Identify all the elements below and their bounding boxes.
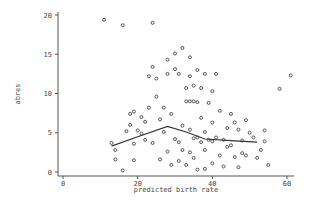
x-tick-label: 0 [61,180,65,188]
data-point [211,121,214,124]
data-point [263,140,266,143]
y-tick-label: 15 [44,51,52,59]
data-point [200,87,203,90]
data-point [222,165,225,168]
data-point [177,160,180,163]
data-point [188,128,191,131]
data-point [166,72,169,75]
data-point [151,141,154,144]
data-point [207,101,210,104]
data-point [188,100,191,103]
data-point [237,128,240,131]
data-point [192,137,195,140]
y-tick-label: 20 [44,12,52,20]
data-point [203,130,206,133]
data-point [170,163,173,166]
data-point [103,18,106,21]
data-point [211,90,214,93]
y-axis-title: abres [14,83,22,104]
y-tick-label: 5 [48,129,52,137]
data-point [170,112,173,115]
data-point [185,163,188,166]
data-point [121,169,124,172]
data-point [129,123,132,126]
data-point [181,124,184,127]
data-point [196,168,199,171]
data-point [233,156,236,159]
data-point [226,145,229,148]
data-point [226,127,229,130]
data-point [125,130,128,133]
data-point [218,154,221,157]
data-point [162,130,165,133]
data-point [166,58,169,61]
x-tick-label: 60 [283,180,291,188]
data-point [166,150,169,153]
smooth-line-layer [112,127,258,147]
data-point [159,158,162,161]
data-point [211,140,214,143]
data-point [140,116,143,119]
data-point [155,77,158,80]
data-point [188,151,191,154]
data-point [233,121,236,124]
data-point [278,87,281,90]
data-point [132,142,135,145]
data-point [144,120,147,123]
data-point [196,68,199,71]
data-point [174,68,177,71]
y-ticks: 05101520 [44,12,58,177]
y-tick-label: 0 [48,169,52,177]
data-point [162,106,165,109]
data-point [248,131,251,134]
data-point [192,84,195,87]
data-point [110,141,113,144]
data-point [136,129,139,132]
data-point [196,101,199,104]
data-point [174,52,177,55]
smoothed-line [112,127,258,147]
data-point [263,129,266,132]
data-point [181,149,184,152]
x-axis-title: predicted birth rate [134,186,218,194]
data-point [289,74,292,77]
data-point [203,167,206,170]
data-point [132,110,135,113]
data-point [192,100,195,103]
data-point [230,144,233,147]
data-point [188,75,191,78]
data-point [174,138,177,141]
data-point [200,141,203,144]
data-point [129,112,132,115]
data-point [252,136,255,139]
data-point [259,149,262,152]
data-point [211,162,214,165]
data-point [177,72,180,75]
data-point [200,116,203,119]
data-point [159,118,162,121]
data-point [155,95,158,98]
data-point [144,138,147,141]
data-point [147,106,150,109]
data-point [181,46,184,49]
data-point [244,154,247,157]
data-point [185,87,188,90]
data-point [218,109,221,112]
data-point [237,166,240,169]
data-point [185,100,188,103]
data-point [203,149,206,152]
plot-area [103,18,293,172]
data-point [241,152,244,155]
data-point [151,21,154,24]
data-point [203,72,206,75]
data-point [114,158,117,161]
data-point [188,56,191,59]
data-point [230,112,233,115]
data-point [256,156,259,159]
data-point [114,149,117,152]
data-point [177,141,180,144]
scatter-chart: 05101520 0204060 predicted birth rate ab… [0,0,309,203]
data-point [151,65,154,68]
data-point [147,75,150,78]
data-point [215,136,218,139]
